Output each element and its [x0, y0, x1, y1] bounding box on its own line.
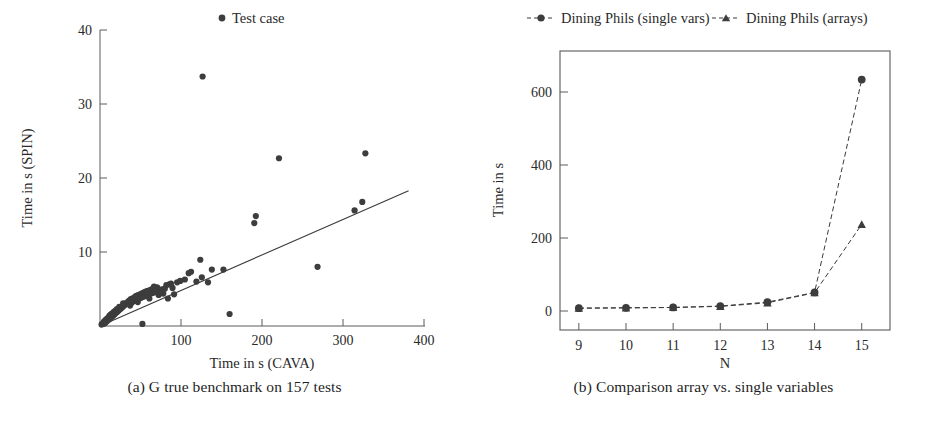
x-tick-label-200: 200 [252, 333, 273, 348]
scatter-point [314, 264, 320, 270]
x-axis-ticks: 100 200 300 400 [171, 319, 435, 348]
subfigure-b: Dining Phils (single vars) Dining Phils … [469, 0, 938, 444]
scatter-point [227, 311, 233, 317]
x-tick-label-300: 300 [333, 333, 354, 348]
x-tick-label-10: 10 [619, 338, 633, 353]
scatter-plot-svg: Test case 40 30 20 10 [0, 0, 469, 372]
scatter-point [165, 295, 171, 301]
scatter-plot-container: Test case 40 30 20 10 [0, 0, 469, 372]
plot-frame [560, 51, 890, 330]
scatter-point [171, 291, 177, 297]
scatter-points-group [98, 73, 368, 327]
line-series-group [575, 76, 866, 312]
y-tick-label-30: 30 [78, 97, 92, 112]
x-tick-label-9: 9 [575, 338, 582, 353]
scatter-point [188, 269, 194, 275]
data-point-marker [858, 76, 866, 84]
scatter-point [276, 155, 282, 161]
scatter-point [197, 257, 203, 263]
x-tick-label-100: 100 [171, 333, 192, 348]
subfigure-a: Test case 40 30 20 10 [0, 0, 469, 444]
line-x-axis-ticks: 9101112131415 [575, 323, 868, 353]
scatter-point [209, 267, 215, 273]
y-tick-label-0: 0 [545, 304, 552, 319]
regression-line [100, 191, 409, 326]
scatter-point [359, 199, 365, 205]
x-axis-title: Time in s (CAVA) [210, 355, 315, 372]
x-tick-label-400: 400 [414, 333, 435, 348]
scatter-point [220, 267, 226, 273]
line-y-axis-title: Time in s [490, 163, 506, 218]
y-tick-label-600: 600 [531, 85, 552, 100]
legend-marker-single-vars [537, 14, 544, 21]
y-tick-label-40: 40 [78, 23, 92, 38]
scatter-point [200, 73, 206, 79]
line-plot-container: Dining Phils (single vars) Dining Phils … [469, 0, 938, 372]
scatter-point [169, 285, 175, 291]
legend-label-single-vars: Dining Phils (single vars) [561, 10, 710, 27]
y-tick-label-200: 200 [531, 231, 552, 246]
legend-label-test-case: Test case [232, 10, 285, 26]
scatter-point [253, 213, 259, 219]
scatter-trend-line [100, 191, 409, 326]
scatter-point [193, 279, 199, 285]
scatter-legend: Test case [219, 10, 285, 26]
legend-label-arrays: Dining Phils (arrays) [746, 10, 868, 27]
y-tick-label-10: 10 [78, 245, 92, 260]
y-tick-label-20: 20 [78, 171, 92, 186]
x-tick-label-11: 11 [666, 338, 679, 353]
series-line-1 [579, 224, 862, 308]
caption-b: (b) Comparison array vs. single variable… [469, 378, 938, 396]
data-point-marker [858, 220, 866, 228]
figure-row: Test case 40 30 20 10 [0, 0, 938, 444]
line-x-axis-title: N [720, 355, 731, 371]
x-tick-label-13: 13 [760, 338, 774, 353]
series-line-0 [579, 80, 862, 309]
caption-a: (a) G true benchmark on 157 tests [0, 378, 469, 396]
scatter-point [351, 207, 357, 213]
scatter-point [199, 274, 205, 280]
scatter-point [182, 276, 188, 282]
y-axis-title: Time in s (SPIN) [19, 128, 36, 227]
scatter-point [205, 279, 211, 285]
line-plot-svg: Dining Phils (single vars) Dining Phils … [469, 0, 938, 372]
scatter-point [362, 150, 368, 156]
x-tick-label-14: 14 [808, 338, 822, 353]
legend-marker-test-case [219, 15, 226, 22]
scatter-point [139, 321, 145, 327]
y-tick-label-400: 400 [531, 158, 552, 173]
y-axis-ticks: 40 30 20 10 [78, 23, 107, 260]
line-y-axis-ticks: 600 400 200 0 [531, 85, 568, 319]
x-tick-label-15: 15 [855, 338, 869, 353]
x-tick-label-12: 12 [713, 338, 727, 353]
line-legend: Dining Phils (single vars) Dining Phils … [527, 10, 868, 27]
scatter-point [251, 220, 257, 226]
